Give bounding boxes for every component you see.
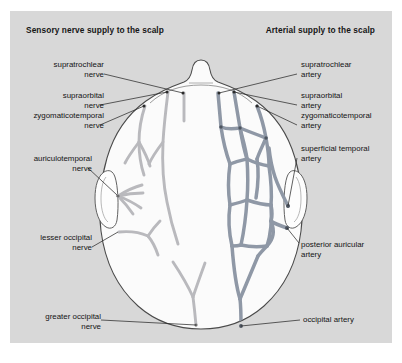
label-line-2: artery bbox=[301, 121, 401, 131]
label-supraorbital-nerve: supraorbital nerve bbox=[18, 91, 104, 112]
label-line-2: nerve bbox=[17, 322, 101, 332]
label-line-2: nerve bbox=[18, 70, 104, 80]
label-line-2: artery bbox=[301, 70, 397, 80]
label-lesser-occipital-nerve: lesser occipital nerve bbox=[14, 233, 92, 254]
label-line-1: superficial temporal bbox=[301, 144, 401, 154]
label-auriculotemporal-nerve: auriculotemporal nerve bbox=[4, 154, 92, 175]
label-line-2: nerve bbox=[4, 121, 104, 131]
header-arterial-supply: Arterial supply to the scalp bbox=[266, 25, 375, 35]
label-line-1: supraorbital bbox=[18, 91, 104, 101]
label-line-1: zygomaticotemporal bbox=[301, 111, 401, 121]
label-zygomaticotemporal-artery: zygomaticotemporal artery bbox=[301, 111, 401, 132]
label-line-1: supraorbital bbox=[301, 91, 397, 101]
label-line-1: greater occipital bbox=[17, 312, 101, 322]
left-ear bbox=[95, 171, 118, 229]
label-line-1: occipital artery bbox=[303, 315, 393, 325]
label-superficial-temporal-artery: superficial temporal artery bbox=[301, 144, 401, 165]
label-line-2: nerve bbox=[14, 243, 92, 253]
scalp-supply-figure: Sensory nerve supply to the scalp Arteri… bbox=[0, 0, 402, 363]
label-line-1: lesser occipital bbox=[14, 233, 92, 243]
label-line-1: zygomaticotemporal bbox=[4, 111, 104, 121]
header-sensory-nerve: Sensory nerve supply to the scalp bbox=[26, 25, 164, 35]
label-line-1: supratrochlear bbox=[301, 60, 397, 70]
label-supraorbital-artery: supraorbital artery bbox=[301, 91, 397, 112]
label-line-1: posterior auricular bbox=[301, 240, 397, 250]
label-line-1: supratrochlear bbox=[18, 60, 104, 70]
label-line-2: nerve bbox=[4, 164, 92, 174]
label-line-2: artery bbox=[301, 250, 397, 260]
label-zygomaticotemporal-nerve: zygomaticotemporal nerve bbox=[4, 111, 104, 132]
label-line-2: artery bbox=[301, 154, 401, 164]
label-line-1: auriculotemporal bbox=[4, 154, 92, 164]
right-ear bbox=[284, 171, 307, 229]
label-posterior-auricular-artery: posterior auricular artery bbox=[301, 240, 397, 261]
label-supratrochlear-artery: supratrochlear artery bbox=[301, 60, 397, 81]
anatomy-illustration bbox=[0, 0, 402, 363]
label-occipital-artery: occipital artery bbox=[303, 315, 393, 325]
label-greater-occipital-nerve: greater occipital nerve bbox=[17, 312, 101, 333]
label-supratrochlear-nerve: supratrochlear nerve bbox=[18, 60, 104, 81]
